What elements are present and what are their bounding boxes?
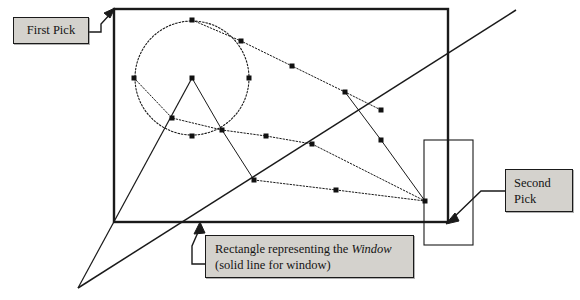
- connector-node-to-lower-vertex: [222, 130, 254, 180]
- diagram-canvas: First Pick Second Pick Rectangle represe…: [0, 0, 580, 300]
- node-marker: [343, 90, 348, 95]
- connector-center-to-node: [192, 78, 222, 130]
- window-note-leader-line: [192, 230, 205, 264]
- callout-window-note-emphasis: Window: [351, 242, 391, 256]
- callout-first-pick-label: First Pick: [27, 23, 75, 38]
- dotted-chain-lower: [254, 180, 425, 201]
- node-marker: [170, 116, 175, 121]
- connector-chain-to-right-edge: [312, 144, 425, 201]
- node-marker: [190, 18, 195, 23]
- node-marker: [334, 188, 339, 193]
- window-rectangle: [114, 9, 448, 222]
- node-marker: [379, 138, 384, 143]
- dotted-chain-upper: [192, 20, 381, 110]
- callout-second-pick[interactable]: Second Pick: [505, 169, 573, 212]
- node-marker: [220, 128, 225, 133]
- callout-window-note-line1-text: Rectangle representing the: [215, 242, 351, 256]
- node-marker: [247, 76, 252, 81]
- node-marker: [252, 178, 257, 183]
- dotted-chain-middle: [134, 78, 312, 144]
- node-markers: [132, 18, 428, 204]
- connector-right-descend: [381, 140, 425, 201]
- callout-window-note-line2: (solid line for window): [215, 257, 413, 273]
- callout-second-pick-line1: Second: [514, 175, 572, 191]
- node-marker: [423, 199, 428, 204]
- node-marker: [379, 108, 384, 113]
- node-marker: [310, 142, 315, 147]
- callout-second-pick-line2: Pick: [514, 191, 572, 207]
- node-marker: [132, 76, 137, 81]
- node-marker: [290, 64, 295, 69]
- apex-leg-line: [78, 78, 192, 288]
- window-note-arrowhead-icon: [194, 222, 205, 234]
- node-marker: [239, 39, 244, 44]
- callout-window-note[interactable]: Rectangle representing the Window (solid…: [205, 235, 414, 278]
- node-marker: [264, 134, 269, 139]
- node-marker: [190, 134, 195, 139]
- node-marker: [190, 76, 195, 81]
- callout-window-note-line1: Rectangle representing the Window: [215, 241, 413, 257]
- callout-first-pick[interactable]: First Pick: [13, 17, 89, 44]
- second-pick-leader-line: [452, 191, 505, 219]
